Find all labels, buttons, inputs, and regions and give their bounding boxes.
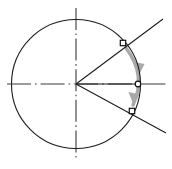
technical-drawing-canvas <box>0 0 172 169</box>
lower-square-marker <box>129 108 134 113</box>
upper-square-marker <box>120 40 125 45</box>
circle-rotation-diagram <box>0 0 172 169</box>
axis-circle-marker <box>135 81 141 87</box>
